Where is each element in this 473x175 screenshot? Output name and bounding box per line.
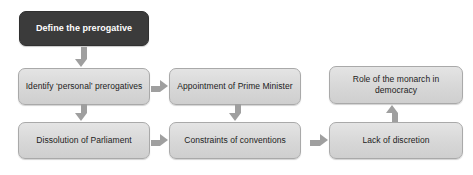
- arrow-stem: [151, 140, 160, 146]
- arrow-stem: [235, 104, 241, 113]
- arrow-down-icon: [232, 104, 244, 121]
- node-dissolution-of-parliament[interactable]: Dissolution of Parliament: [18, 122, 150, 159]
- arrow-head: [160, 80, 168, 92]
- arrow-right-icon: [310, 137, 328, 149]
- node-appointment-of-prime-minister[interactable]: Appointment of Prime Minister: [169, 68, 301, 105]
- node-lack-of-discretion[interactable]: Lack of discretion: [329, 122, 463, 159]
- node-label: Define the prerogative: [25, 23, 143, 34]
- node-label: Constraints of conventions: [175, 135, 295, 146]
- node-role-of-the-monarch-in-democracy[interactable]: Role of the monarch in democracy: [329, 66, 463, 104]
- arrow-up-icon: [389, 105, 401, 122]
- arrow-head: [229, 113, 241, 121]
- arrow-stem: [81, 104, 87, 113]
- arrow-head: [320, 134, 328, 146]
- arrow-head: [75, 59, 87, 67]
- arrow-head: [75, 113, 87, 121]
- node-label: Identify ‘personal’ prerogatives: [24, 81, 144, 92]
- arrow-head: [386, 105, 398, 113]
- arrow-down-icon: [78, 47, 90, 67]
- node-label: Dissolution of Parliament: [24, 135, 144, 146]
- arrow-stem: [81, 47, 87, 59]
- arrow-down-icon: [78, 104, 90, 121]
- arrow-stem: [392, 113, 398, 122]
- arrow-stem: [310, 140, 320, 146]
- node-define-the-prerogative[interactable]: Define the prerogative: [19, 11, 149, 46]
- flowchart-diagram: Define the prerogative Identify ‘persona…: [0, 0, 473, 175]
- arrow-right-icon: [151, 83, 168, 95]
- arrow-head: [160, 134, 168, 146]
- arrow-right-icon: [151, 137, 168, 149]
- node-label: Role of the monarch in democracy: [335, 74, 457, 96]
- node-label: Appointment of Prime Minister: [175, 81, 295, 92]
- arrow-stem: [151, 86, 160, 92]
- node-label: Lack of discretion: [335, 135, 457, 146]
- node-constraints-of-conventions[interactable]: Constraints of conventions: [169, 122, 301, 159]
- node-identify-personal-prerogatives[interactable]: Identify ‘personal’ prerogatives: [18, 68, 150, 105]
